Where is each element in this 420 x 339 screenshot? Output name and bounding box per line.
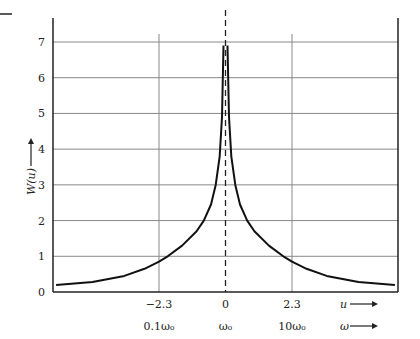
y-tick-label: 4 [38, 143, 45, 156]
curve-right [228, 46, 395, 285]
x-tick-label: 0 [222, 298, 229, 311]
y-tick-label: 7 [38, 36, 45, 49]
u-arrow-head-icon [372, 301, 378, 307]
x-tick-label: 2.3 [283, 298, 301, 311]
y-arrow-head-icon [28, 138, 34, 144]
curve-left [56, 46, 223, 285]
y-tick-label: 0 [38, 286, 45, 299]
axis-labels: uωW(u) [25, 138, 378, 333]
omega-arrow-head-icon [372, 323, 378, 329]
grid [53, 10, 398, 292]
y-axis-label-group: W(u) [25, 138, 38, 195]
y-axis-label: W(u) [25, 168, 38, 195]
weighting-function-chart: 01234567−2.30.1ω₀0ω₀2.310ω₀ uωW(u) [0, 0, 420, 339]
y-tick-label: 1 [38, 250, 45, 263]
x-axis-label-u: u [340, 298, 347, 311]
y-tick-label: 3 [38, 179, 45, 192]
x-axis-label-omega: ω [340, 320, 349, 333]
omega-tick-label: ω₀ [219, 320, 233, 333]
omega-tick-label: 0.1ω₀ [144, 320, 175, 333]
x-tick-label: −2.3 [146, 298, 173, 311]
y-tick-label: 2 [38, 215, 45, 228]
axes-frame [0, 14, 398, 292]
omega-tick-label: 10ω₀ [278, 320, 306, 333]
y-tick-label: 6 [38, 72, 45, 85]
y-tick-label: 5 [38, 107, 45, 120]
